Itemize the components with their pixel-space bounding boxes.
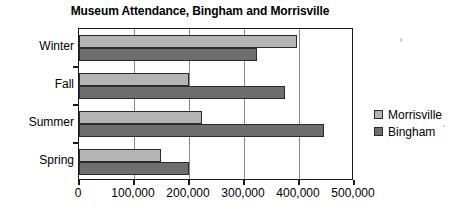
chart-legend: MorrisvilleBingham: [374, 106, 464, 140]
bar-summer-morrisville: [79, 111, 202, 124]
scan-speck: [443, 125, 445, 127]
legend-label: Bingham: [388, 125, 435, 139]
x-axis-tick: [298, 180, 300, 185]
bar-summer-bingham: [79, 124, 324, 137]
x-axis-tick: [78, 180, 80, 185]
x-axis-tick: [353, 180, 355, 185]
y-axis-label-fall: Fall: [2, 77, 74, 91]
x-axis-tick-label: 300,000: [221, 186, 264, 200]
x-axis-tick-label: 100,000: [111, 186, 154, 200]
y-axis-category-labels: WinterFallSummerSpring: [0, 28, 74, 180]
bar-fall-bingham: [79, 86, 285, 99]
x-axis-tick: [243, 180, 245, 185]
y-axis-tick: [73, 142, 78, 144]
chart-title: Museum Attendance, Bingham and Morrisvil…: [0, 4, 400, 18]
bar-winter-bingham: [79, 48, 257, 61]
y-axis-tick: [73, 66, 78, 68]
x-axis: 0100,000200,000300,000400,000500,000: [0, 180, 467, 210]
bar-chart: Museum Attendance, Bingham and Morrisvil…: [0, 0, 467, 220]
y-axis-label-winter: Winter: [2, 39, 74, 53]
y-axis-label-spring: Spring: [2, 153, 74, 167]
legend-item-bingham[interactable]: Bingham: [374, 123, 464, 140]
x-axis-tick-label: 400,000: [276, 186, 319, 200]
y-axis-label-summer: Summer: [2, 115, 74, 129]
legend-swatch-icon: [374, 110, 383, 119]
bar-winter-morrisville: [79, 35, 297, 48]
bar-fall-morrisville: [79, 73, 189, 86]
gridline: [299, 29, 300, 179]
x-axis-tick: [188, 180, 190, 185]
legend-label: Morrisville: [388, 108, 442, 122]
bar-spring-bingham: [79, 162, 189, 175]
x-axis-tick-label: 200,000: [166, 186, 209, 200]
y-axis-tick: [73, 104, 78, 106]
scan-speck: [400, 38, 402, 42]
x-axis-tick-label: 0: [75, 186, 82, 200]
x-axis-tick: [133, 180, 135, 185]
legend-item-morrisville[interactable]: Morrisville: [374, 106, 464, 123]
legend-swatch-icon: [374, 127, 383, 136]
bar-spring-morrisville: [79, 149, 161, 162]
plot-area: [78, 28, 353, 180]
x-axis-tick-label: 500,000: [331, 186, 374, 200]
